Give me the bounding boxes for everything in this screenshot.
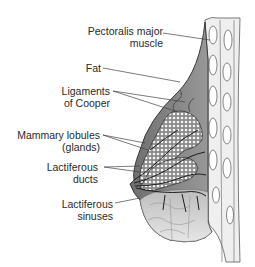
label-line: muscle — [88, 37, 163, 49]
label-lactiferous-sinuses: Lactiferous sinuses — [62, 198, 113, 222]
label-line: Fat — [86, 62, 101, 74]
label-lactiferous-ducts: Lactiferous ducts — [47, 161, 98, 185]
label-line: Lactiferous — [62, 198, 113, 210]
label-line: Ligaments — [62, 85, 110, 97]
label-line: (glands) — [17, 141, 100, 153]
label-line: sinuses — [62, 210, 113, 222]
breast-anatomy-diagram: Pectoralis major muscle Fat Ligaments of… — [0, 0, 255, 267]
label-mammary-lobules: Mammary lobules (glands) — [17, 129, 100, 153]
label-ligaments-of-cooper: Ligaments of Cooper — [62, 85, 110, 109]
label-line: Lactiferous — [47, 161, 98, 173]
label-pectoralis-major-muscle: Pectoralis major muscle — [88, 25, 163, 49]
label-line: Mammary lobules — [17, 129, 100, 141]
label-fat: Fat — [86, 62, 101, 74]
label-line: Pectoralis major — [88, 25, 163, 37]
label-line: of Cooper — [62, 97, 110, 109]
label-line: ducts — [47, 173, 98, 185]
chest-wall — [205, 17, 240, 262]
